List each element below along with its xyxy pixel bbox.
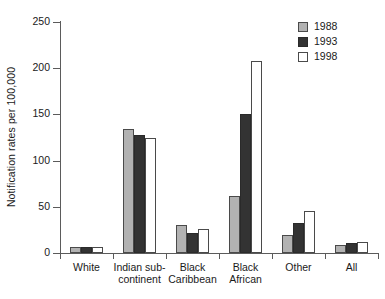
y-axis-tick-label: 150 <box>2 108 50 118</box>
x-axis-label-line: Other <box>272 261 325 273</box>
x-axis-label-line: African <box>219 273 272 285</box>
x-axis-label-line: Black <box>219 261 272 273</box>
x-axis-group-tick <box>219 253 220 259</box>
x-axis-label-line: Indian sub- <box>113 261 166 273</box>
bar-1993-4 <box>293 223 304 253</box>
bar-1998-4 <box>304 211 315 253</box>
bar-1998-5 <box>357 242 368 253</box>
bar-1998-2 <box>198 229 209 253</box>
x-axis-label-5: All <box>325 261 378 273</box>
bar-1998-0 <box>92 247 103 253</box>
bar-1998-1 <box>145 138 156 253</box>
bar-1993-3 <box>240 114 251 253</box>
y-axis-tick-label-wrap: 250 <box>0 16 50 27</box>
x-axis-label-0: White <box>60 261 113 273</box>
x-axis-label-line: continent <box>113 273 166 285</box>
x-axis-group-tick <box>113 253 114 259</box>
legend-swatch-1993 <box>298 37 308 47</box>
x-axis-group-tick <box>60 253 61 259</box>
legend: 198819931998 <box>298 20 374 65</box>
legend-swatch-1988 <box>298 22 308 32</box>
y-axis-tick-label-wrap: 100 <box>0 155 50 166</box>
bar-1988-0 <box>70 247 81 253</box>
x-axis-label-3: BlackAfrican <box>219 261 272 285</box>
bar-1998-3 <box>251 61 262 253</box>
legend-label-1998: 1998 <box>314 51 337 62</box>
x-axis-label-2: BlackCaribbean <box>166 261 219 285</box>
x-axis-group-tick <box>378 253 379 259</box>
y-axis-tick-label-wrap: 150 <box>0 108 50 119</box>
y-axis-tick-label: 0 <box>2 247 50 257</box>
y-axis-tick-label-wrap: 0 <box>0 247 50 258</box>
bar-chart: Notification rates per 100,000 050100150… <box>0 0 385 299</box>
y-axis-tick-label: 250 <box>2 16 50 26</box>
x-axis-label-line: All <box>325 261 378 273</box>
bar-1988-1 <box>123 129 134 253</box>
bar-1993-0 <box>81 247 92 253</box>
legend-label-1993: 1993 <box>314 36 337 47</box>
y-axis-tick-label-wrap: 200 <box>0 62 50 73</box>
x-axis-label-line: Black <box>166 261 219 273</box>
y-axis-tick-label: 50 <box>2 201 50 211</box>
legend-item-1988: 1988 <box>298 20 374 33</box>
legend-item-1993: 1993 <box>298 35 374 48</box>
x-axis-group-tick <box>325 253 326 259</box>
bar-1988-2 <box>176 225 187 253</box>
y-axis-tick-label-wrap: 50 <box>0 201 50 212</box>
legend-item-1998: 1998 <box>298 50 374 63</box>
bar-1993-2 <box>187 233 198 253</box>
bar-1988-3 <box>229 196 240 253</box>
x-axis-label-line: White <box>60 261 113 273</box>
bar-1988-4 <box>282 235 293 253</box>
legend-label-1988: 1988 <box>314 21 337 32</box>
y-axis-title: Notification rates per 100,000 <box>2 21 20 253</box>
x-axis-label-line: Caribbean <box>166 273 219 285</box>
x-axis-group-tick <box>166 253 167 259</box>
x-axis-label-1: Indian sub-continent <box>113 261 166 285</box>
bar-1993-5 <box>346 243 357 253</box>
bar-1993-1 <box>134 135 145 253</box>
legend-swatch-1998 <box>298 52 308 62</box>
bar-1988-5 <box>335 245 346 253</box>
y-axis-tick-label: 200 <box>2 62 50 72</box>
x-axis-label-4: Other <box>272 261 325 273</box>
x-axis-group-tick <box>272 253 273 259</box>
y-axis-tick-label: 100 <box>2 155 50 165</box>
